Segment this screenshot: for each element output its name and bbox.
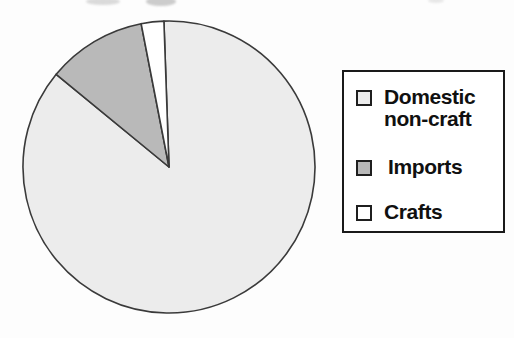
legend-swatch-domestic-non-craft — [356, 90, 372, 106]
legend-swatch-imports — [356, 160, 372, 176]
legend-swatch-crafts — [356, 205, 372, 221]
legend-label-domestic-non-craft: Domestic non-craft — [384, 86, 475, 130]
legend-label-imports: Imports — [384, 156, 462, 178]
legend-item-imports: Imports — [356, 156, 462, 178]
legend-item-crafts: Crafts — [356, 201, 442, 223]
legend-box: Domestic non-craft Imports Crafts — [342, 70, 505, 233]
figure-canvas: Domestic non-craft Imports Crafts — [0, 0, 514, 338]
legend-item-domestic-non-craft: Domestic non-craft — [356, 86, 475, 130]
legend-label-crafts: Crafts — [384, 201, 442, 223]
